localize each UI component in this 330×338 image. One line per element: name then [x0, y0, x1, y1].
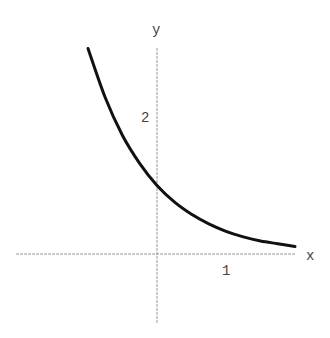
y-axis-label: y [152, 22, 160, 38]
curve [88, 49, 295, 247]
plot: y x 2 1 [0, 0, 330, 338]
x-axis-label: x [306, 248, 314, 264]
x-tick-label: 1 [222, 263, 230, 279]
y-tick-label: 2 [141, 110, 149, 126]
